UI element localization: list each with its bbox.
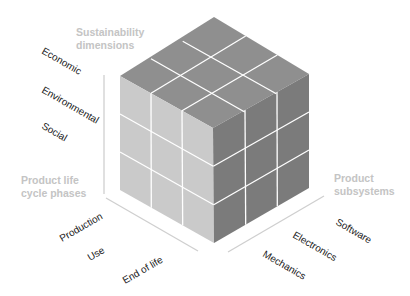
label-production: Production — [58, 210, 105, 243]
subsystems-axis-title: Product subsystems — [334, 172, 395, 197]
label-environmental: Environmental — [40, 84, 101, 125]
cube — [120, 17, 309, 243]
label-software: Software — [334, 216, 374, 245]
label-social: Social — [40, 120, 69, 143]
sustainability-axis-title: Sustainability dimensions — [76, 26, 147, 51]
sustainability-cube-diagram: Sustainability dimensions Product life c… — [0, 0, 410, 296]
label-mechanics: Mechanics — [261, 248, 308, 281]
lifecycle-axis-title: Product life cycle phases — [21, 174, 87, 199]
label-electronics: Electronics — [291, 229, 339, 263]
label-end-of-life: End of life — [121, 254, 165, 286]
label-use: Use — [86, 244, 107, 263]
